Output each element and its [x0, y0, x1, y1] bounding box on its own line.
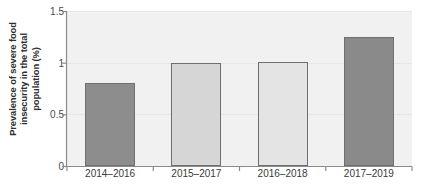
- bar: [344, 37, 394, 166]
- y-tick-label: 0.5: [38, 109, 64, 120]
- y-tick-label: 1: [38, 57, 64, 68]
- y-axis-title-line-1: Prevalence of severe food: [7, 22, 18, 136]
- x-tick-label: 2017–2019: [344, 168, 394, 179]
- y-axis-tick-labels: 00.511.5: [36, 0, 64, 191]
- plot-area: [67, 11, 412, 166]
- bar: [171, 63, 221, 166]
- x-tick-label: 2015–2017: [171, 168, 221, 179]
- bar: [258, 62, 308, 166]
- bar-chart: Prevalence of severe food insecurity in …: [0, 0, 425, 191]
- x-tick-label: 2014–2016: [85, 168, 135, 179]
- y-tick-label: 1.5: [38, 6, 64, 17]
- x-axis-tick-labels: 2014–20162015–20172016–20182017–2019: [67, 168, 412, 188]
- y-tick-label: 0: [38, 161, 64, 172]
- bars-group: [67, 11, 412, 166]
- x-tick-label: 2016–2018: [258, 168, 308, 179]
- bar: [85, 83, 135, 166]
- y-axis-title-line-2: insecurity in the total: [18, 33, 29, 125]
